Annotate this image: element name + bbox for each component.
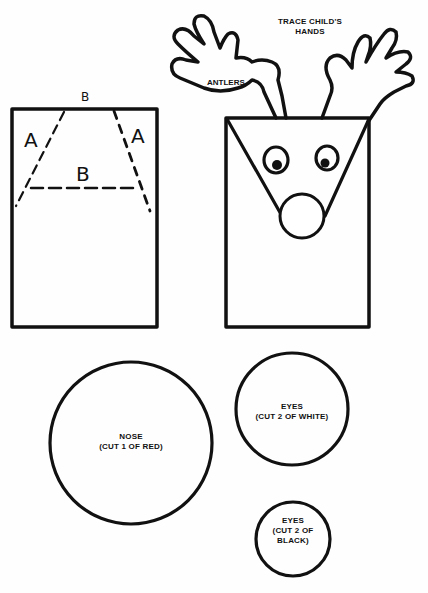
label-top-b: B — [81, 90, 89, 104]
pattern-artwork — [0, 0, 428, 593]
eye-white-piece-label: EYES (CUT 2 OF WHITE) — [242, 402, 342, 422]
nose-piece-label: NOSE (CUT 1 OF RED) — [81, 432, 181, 452]
eye-black-piece-instruction-1: (CUT 2 OF — [253, 526, 333, 536]
nose-piece-name: NOSE — [81, 432, 181, 442]
instruction-line-2: HANDS — [270, 27, 350, 37]
reindeer-puppet-drawing — [172, 16, 413, 327]
eye-black-piece-name: EYES — [253, 516, 333, 526]
antlers-label: ANTLERS — [207, 78, 245, 88]
eye-black-piece-label: EYES (CUT 2 OF BLACK) — [253, 516, 333, 546]
trace-hands-instruction: TRACE CHILD'S HANDS — [270, 17, 350, 37]
eye-white-piece-instruction: (CUT 2 OF WHITE) — [242, 412, 342, 422]
label-middle-b: B — [76, 162, 90, 186]
right-antler-hand-outline — [322, 29, 413, 122]
label-left-a: A — [24, 128, 38, 152]
eye-white-piece-name: EYES — [242, 402, 342, 412]
instruction-line-1: TRACE CHILD'S — [270, 17, 350, 27]
left-antler-hand-outline — [172, 16, 286, 118]
pattern-page: B A A B TRACE CHILD'S HANDS ANTLERS NOSE… — [0, 0, 428, 593]
eye-black-piece-instruction-2: BLACK) — [253, 536, 333, 546]
nose-piece-instruction: (CUT 1 OF RED) — [81, 442, 181, 452]
label-right-a: A — [131, 124, 145, 148]
